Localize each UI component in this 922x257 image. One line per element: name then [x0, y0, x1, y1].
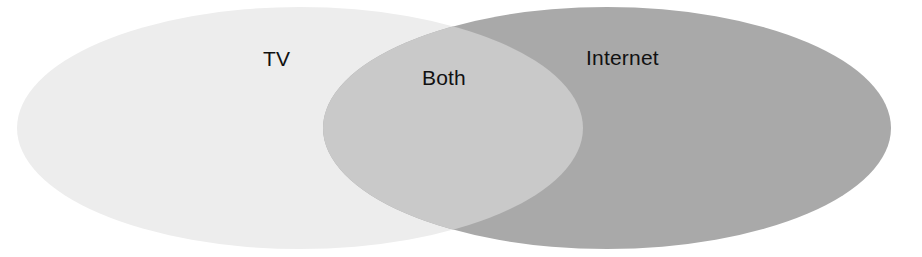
- tv-label: TV: [263, 48, 290, 69]
- venn-diagram: [0, 0, 922, 257]
- internet-label: Internet: [586, 47, 659, 68]
- both-label: Both: [422, 67, 466, 88]
